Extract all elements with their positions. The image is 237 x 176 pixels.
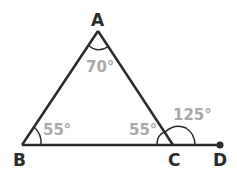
point-d	[217, 142, 224, 149]
angle-arc-c-interior	[157, 132, 165, 145]
vertex-label-b: B	[13, 150, 26, 170]
vertex-label-d: D	[213, 150, 227, 170]
vertex-label-c: C	[168, 150, 180, 170]
angle-label-c-interior: 55°	[129, 121, 157, 139]
vertex-label-a: A	[91, 10, 105, 30]
angle-label-a: 70°	[86, 58, 114, 76]
angle-arc-c-exterior	[165, 126, 195, 145]
triangle-diagram: A B C D 70° 55° 55° 125°	[0, 0, 237, 176]
angle-arc-b	[34, 127, 41, 145]
angle-label-b: 55°	[43, 121, 71, 139]
angle-label-c-exterior: 125°	[173, 106, 212, 124]
angle-arc-a	[88, 45, 109, 50]
